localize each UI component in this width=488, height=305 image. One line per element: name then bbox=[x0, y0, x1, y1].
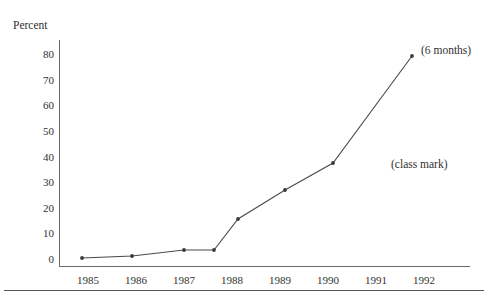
data-point-marker bbox=[212, 248, 216, 252]
bottom-divider bbox=[4, 290, 484, 291]
series-polyline bbox=[82, 56, 412, 258]
data-point-marker bbox=[410, 54, 414, 58]
series-line-percent bbox=[80, 54, 414, 260]
data-point-marker bbox=[331, 161, 335, 165]
data-point-marker bbox=[130, 254, 134, 258]
axis-lines bbox=[59, 40, 470, 267]
data-point-marker bbox=[236, 217, 240, 221]
data-point-marker bbox=[283, 188, 287, 192]
series-markers bbox=[80, 54, 414, 260]
data-point-marker bbox=[182, 248, 186, 252]
plot-area bbox=[0, 0, 488, 305]
data-point-marker bbox=[80, 256, 84, 260]
chart-figure: Percent 80 70 60 50 40 30 20 10 0 1985 1… bbox=[0, 0, 488, 305]
